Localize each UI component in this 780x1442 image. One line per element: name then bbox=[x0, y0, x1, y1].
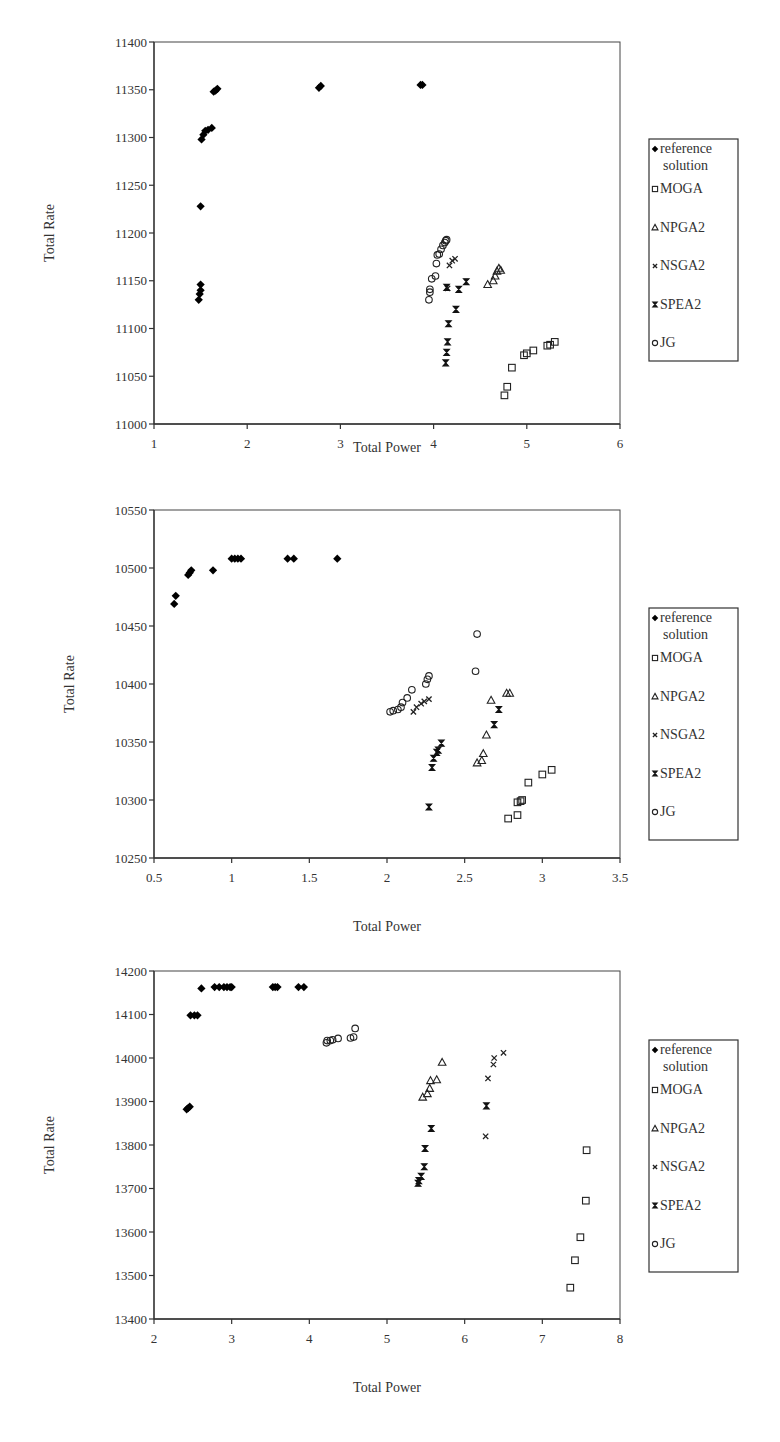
x-tick-label: 1 bbox=[228, 870, 235, 885]
scatter-plot-1: 1100011050111001115011200112501130011350… bbox=[0, 0, 780, 490]
legend-label: reference bbox=[660, 1042, 712, 1057]
chart-2-total-rate-vs-power: 102501030010350104001045010500105500.511… bbox=[0, 490, 780, 960]
legend: referencesolutionMOGANPGA2NSGA2SPEA2JG bbox=[649, 608, 738, 840]
chart-3-total-rate-vs-power: 1340013500136001370013800139001400014100… bbox=[0, 960, 780, 1430]
legend-label: MOGA bbox=[660, 1082, 704, 1097]
chart-1-total-rate-vs-power: 1100011050111001115011200112501130011350… bbox=[0, 0, 780, 490]
y-tick-label: 10500 bbox=[115, 561, 148, 576]
x-tick-label: 0.5 bbox=[146, 870, 162, 885]
legend-label: reference bbox=[660, 610, 712, 625]
y-tick-label: 13700 bbox=[115, 1181, 148, 1196]
y-tick-label: 11200 bbox=[115, 226, 147, 241]
y-axis-title: Total Rate bbox=[42, 1116, 57, 1174]
x-tick-label: 4 bbox=[306, 1331, 313, 1346]
y-tick-label: 10550 bbox=[115, 503, 148, 518]
y-tick-label: 11100 bbox=[115, 321, 147, 336]
x-axis-title: Total Power bbox=[353, 1380, 421, 1395]
legend-label: solution bbox=[663, 158, 708, 173]
y-tick-label: 14100 bbox=[115, 1007, 148, 1022]
legend-label: NSGA2 bbox=[660, 1159, 705, 1174]
plot-area bbox=[154, 510, 620, 858]
y-tick-label: 13900 bbox=[115, 1094, 148, 1109]
y-tick-label: 11050 bbox=[115, 369, 147, 384]
x-tick-label: 4 bbox=[430, 436, 437, 451]
y-tick-label: 11150 bbox=[115, 273, 147, 288]
y-tick-label: 10350 bbox=[115, 735, 148, 750]
x-tick-label: 8 bbox=[617, 1331, 624, 1346]
legend-label: SPEA2 bbox=[660, 766, 701, 781]
legend-label: JG bbox=[660, 804, 676, 819]
x-tick-label: 6 bbox=[461, 1331, 468, 1346]
legend-item-spea2: SPEA2 bbox=[653, 766, 701, 781]
legend-label: MOGA bbox=[660, 181, 704, 196]
legend-item-nsga2: NSGA2 bbox=[653, 1159, 705, 1174]
y-tick-label: 10250 bbox=[115, 851, 148, 866]
x-tick-label: 2.5 bbox=[457, 870, 473, 885]
legend-label: JG bbox=[660, 1236, 676, 1251]
y-tick-label: 10400 bbox=[115, 677, 148, 692]
x-tick-label: 5 bbox=[384, 1331, 391, 1346]
x-tick-label: 7 bbox=[539, 1331, 546, 1346]
y-tick-label: 11300 bbox=[115, 130, 147, 145]
plot-area bbox=[154, 42, 620, 424]
x-tick-label: 6 bbox=[617, 436, 624, 451]
y-tick-label: 10300 bbox=[115, 793, 148, 808]
y-tick-label: 14000 bbox=[115, 1051, 148, 1066]
y-axis-title: Total Rate bbox=[42, 204, 57, 262]
scatter-plot-2: 102501030010350104001045010500105500.511… bbox=[0, 490, 780, 960]
x-axis-title: Total Power bbox=[353, 440, 421, 455]
y-tick-label: 10450 bbox=[115, 619, 148, 634]
legend-item-npga2: NPGA2 bbox=[652, 220, 705, 235]
y-tick-label: 11350 bbox=[115, 82, 147, 97]
legend-item-moga: MOGA bbox=[652, 1082, 703, 1097]
x-tick-label: 2 bbox=[384, 870, 391, 885]
y-tick-label: 13400 bbox=[115, 1312, 148, 1327]
legend-item-spea2: SPEA2 bbox=[653, 297, 701, 312]
scatter-plot-3: 1340013500136001370013800139001400014100… bbox=[0, 960, 780, 1430]
y-tick-label: 13800 bbox=[115, 1138, 148, 1153]
x-tick-label: 3.5 bbox=[612, 870, 628, 885]
x-tick-label: 1 bbox=[151, 436, 158, 451]
x-axis-title: Total Power bbox=[353, 919, 421, 934]
legend-label: NPGA2 bbox=[660, 1121, 705, 1136]
y-axis-title: Total Rate bbox=[62, 655, 77, 713]
legend-label: solution bbox=[663, 627, 708, 642]
legend-item-npga2: NPGA2 bbox=[652, 1121, 705, 1136]
y-tick-label: 11400 bbox=[115, 35, 147, 50]
legend-label: NSGA2 bbox=[660, 258, 705, 273]
x-tick-label: 3 bbox=[337, 436, 344, 451]
x-tick-label: 1.5 bbox=[301, 870, 317, 885]
legend-item-spea2: SPEA2 bbox=[653, 1198, 701, 1213]
x-tick-label: 5 bbox=[524, 436, 531, 451]
y-tick-label: 13600 bbox=[115, 1225, 148, 1240]
x-tick-label: 3 bbox=[228, 1331, 235, 1346]
y-tick-label: 11000 bbox=[115, 417, 147, 432]
legend-label: NPGA2 bbox=[660, 220, 705, 235]
legend-label: NSGA2 bbox=[660, 727, 705, 742]
plot-area bbox=[154, 971, 620, 1319]
legend-label: solution bbox=[663, 1059, 708, 1074]
legend-label: MOGA bbox=[660, 650, 704, 665]
legend: referencesolutionMOGANPGA2NSGA2SPEA2JG bbox=[649, 139, 738, 361]
legend-label: SPEA2 bbox=[660, 1198, 701, 1213]
legend-item-npga2: NPGA2 bbox=[652, 689, 705, 704]
legend-label: SPEA2 bbox=[660, 297, 701, 312]
y-tick-label: 11250 bbox=[115, 178, 147, 193]
y-tick-label: 13500 bbox=[115, 1268, 148, 1283]
y-tick-label: 14200 bbox=[115, 964, 148, 979]
legend: referencesolutionMOGANPGA2NSGA2SPEA2JG bbox=[649, 1040, 738, 1272]
legend-label: NPGA2 bbox=[660, 689, 705, 704]
x-tick-label: 2 bbox=[151, 1331, 158, 1346]
legend-label: JG bbox=[660, 335, 676, 350]
legend-label: reference bbox=[660, 141, 712, 156]
x-tick-label: 2 bbox=[244, 436, 251, 451]
legend-item-nsga2: NSGA2 bbox=[653, 258, 705, 273]
legend-item-nsga2: NSGA2 bbox=[653, 727, 705, 742]
legend-item-moga: MOGA bbox=[652, 181, 703, 196]
x-tick-label: 3 bbox=[539, 870, 546, 885]
legend-item-moga: MOGA bbox=[652, 650, 703, 665]
